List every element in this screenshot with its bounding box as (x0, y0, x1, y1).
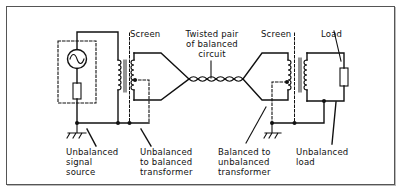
output-transformer-primary-icon (288, 60, 291, 90)
output-transformer-core-icon (299, 58, 301, 92)
input-transformer-secondary-icon (131, 53, 134, 100)
label-balanced-to-unbalanced-transformer: Balanced to unbalanced transformer (218, 147, 271, 177)
label-load: Load (321, 29, 342, 39)
input-centre-tap-dashed (134, 80, 149, 123)
ground-left-icon (67, 123, 86, 138)
label-screen-right: Screen (261, 29, 291, 39)
source-top-wire (77, 32, 118, 60)
output-centre-tap-dashed (272, 82, 287, 123)
load-resistor-icon (340, 68, 348, 86)
input-transformer-core-icon (124, 60, 126, 92)
label-screen-left: Screen (130, 29, 160, 39)
label-unbalanced-signal-source: Unbalanced signal source (66, 147, 118, 177)
ac-source-icon (68, 50, 87, 69)
ground-right-icon (264, 123, 281, 138)
label-unbalanced-load: Unbalanced load (296, 147, 348, 167)
label-twisted-pair: Twisted pair of balanced circuit (180, 29, 244, 59)
output-transformer-secondary-icon (304, 53, 307, 101)
source-resistor-icon (73, 83, 81, 99)
twisted-pair-icon (189, 77, 243, 82)
label-unbalanced-to-balanced-transformer: Unbalanced to balanced transformer (140, 147, 193, 177)
input-transformer-primary-icon (118, 60, 121, 123)
